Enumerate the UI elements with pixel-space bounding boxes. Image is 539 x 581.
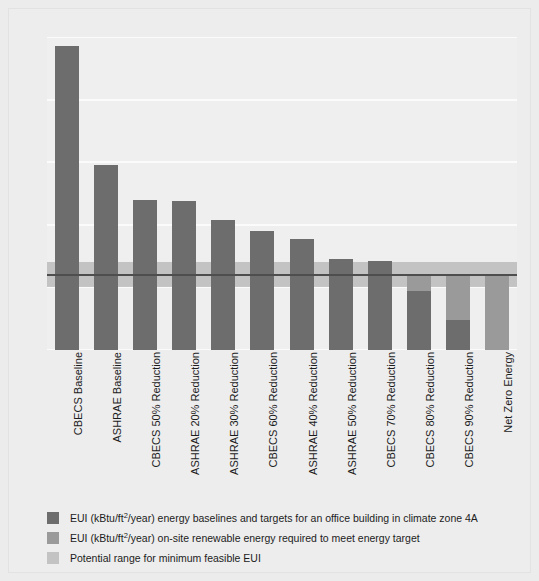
- bar-group[interactable]: [172, 37, 196, 350]
- x-axis-label: ASHRAE 40% Reduction: [307, 352, 319, 492]
- x-axis-label: ASHRAE 20% Reduction: [189, 352, 201, 492]
- plot-area: [47, 37, 517, 350]
- legend-label: EUI (kBtu/ft2/year) on-site renewable en…: [70, 532, 420, 544]
- bar-group[interactable]: [329, 37, 353, 350]
- bar-group[interactable]: [55, 37, 79, 350]
- legend-label: Potential range for minimum feasible EUI: [70, 552, 261, 564]
- bar-segment-eui: [407, 291, 431, 350]
- legend-swatch-range: [47, 552, 59, 564]
- bar-group[interactable]: [250, 37, 274, 350]
- bar-group[interactable]: [290, 37, 314, 350]
- x-axis-labels: CBECS BaselineASHRAE BaselineCBECS 50% R…: [47, 352, 517, 492]
- bar-group[interactable]: [485, 37, 509, 350]
- x-axis-label: CBECS 70% Reduction: [385, 352, 397, 492]
- legend-swatch-eui: [47, 512, 59, 524]
- legend-label: EUI (kBtu/ft2/year) energy baselines and…: [70, 512, 478, 524]
- bar-group[interactable]: [446, 37, 470, 350]
- bar-segment-eui: [55, 46, 79, 350]
- legend-row: EUI (kBtu/ft2/year) energy baselines and…: [47, 508, 517, 528]
- bar-segment-renewable: [485, 275, 509, 350]
- plot-wrapper: 020406080100: [47, 37, 517, 350]
- x-axis-label: ASHRAE Baseline: [111, 352, 123, 492]
- chart-legend: EUI (kBtu/ft2/year) energy baselines and…: [47, 508, 517, 568]
- legend-row: EUI (kBtu/ft2/year) on-site renewable en…: [47, 528, 517, 548]
- bar-segment-eui: [250, 231, 274, 350]
- x-axis-label: CBECS 50% Reduction: [150, 352, 162, 492]
- x-axis-label: CBECS Baseline: [72, 352, 84, 492]
- bar-group[interactable]: [368, 37, 392, 350]
- bar-group[interactable]: [94, 37, 118, 350]
- bar-segment-eui: [329, 259, 353, 350]
- bar-segment-eui: [446, 320, 470, 350]
- bar-group[interactable]: [407, 37, 431, 350]
- bar-group[interactable]: [211, 37, 235, 350]
- bar-segment-renewable: [407, 275, 431, 291]
- bar-segment-eui: [94, 165, 118, 350]
- target-line-rule: [47, 274, 517, 276]
- x-axis-label: CBECS 60% Reduction: [267, 352, 279, 492]
- x-axis-label: ASHRAE 30% Reduction: [228, 352, 240, 492]
- bar-segment-eui: [290, 239, 314, 350]
- chart-figure: 020406080100 CBECS BaselineASHRAE Baseli…: [0, 0, 539, 581]
- bar-segment-renewable: [446, 275, 470, 320]
- x-axis-label: Net Zero Energy: [502, 352, 514, 492]
- x-axis-label: CBECS 80% Reduction: [424, 352, 436, 492]
- bar-group[interactable]: [133, 37, 157, 350]
- x-axis-label: ASHRAE 50% Reduction: [346, 352, 358, 492]
- x-axis-label: CBECS 90% Reduction: [463, 352, 475, 492]
- bar-segment-eui: [211, 220, 235, 350]
- legend-swatch-renewable: [47, 532, 59, 544]
- legend-row: Potential range for minimum feasible EUI: [47, 548, 517, 568]
